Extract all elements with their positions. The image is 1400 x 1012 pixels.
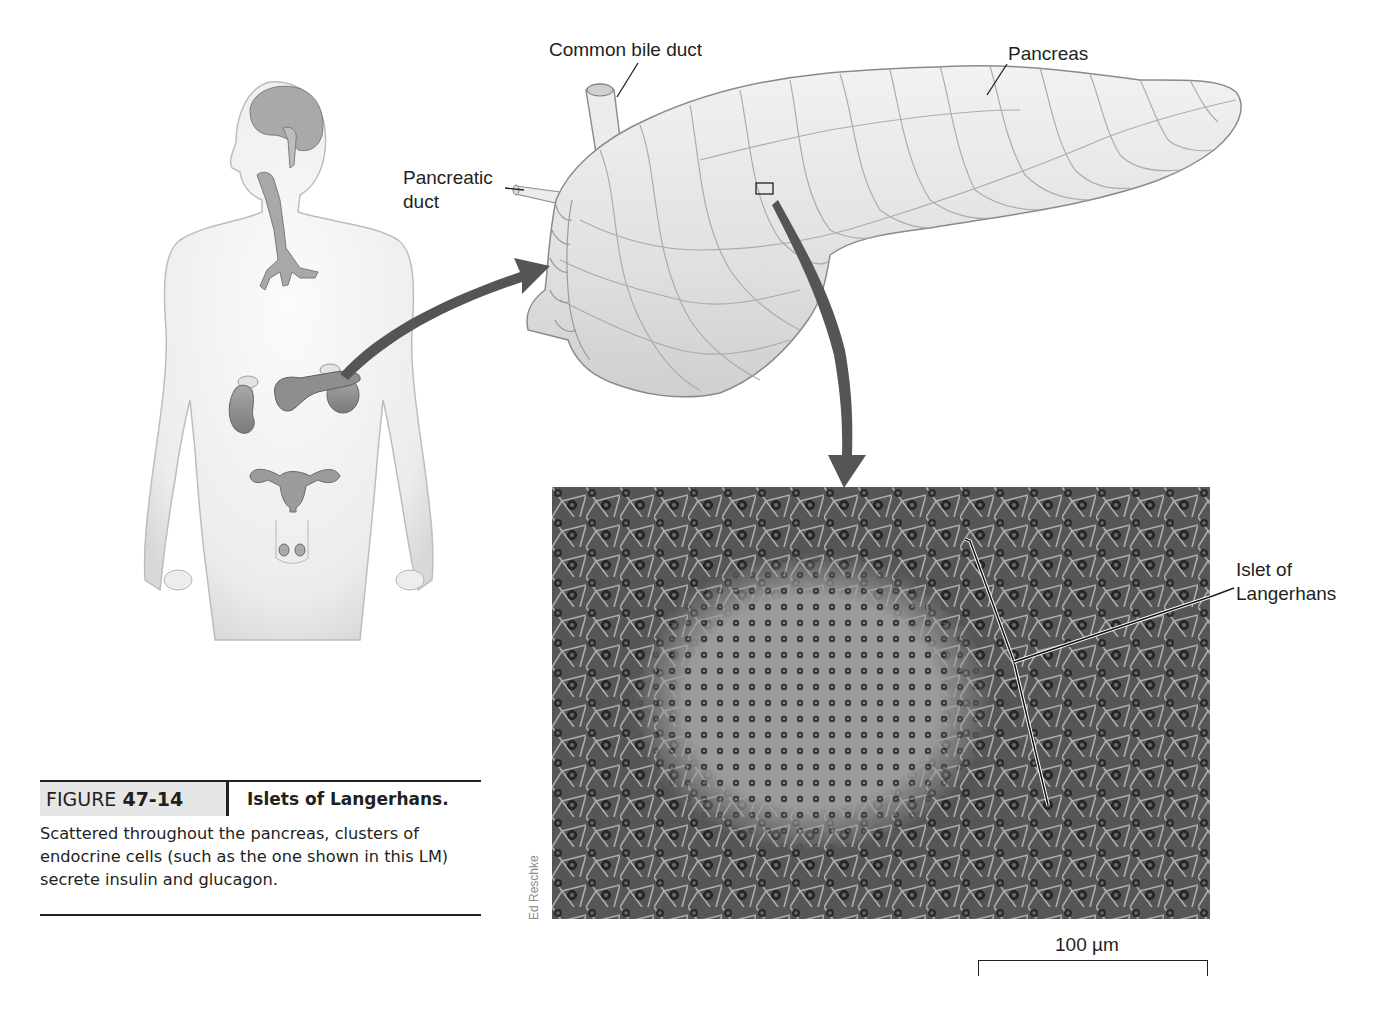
label-common-bile-duct: Common bile duct [549,38,702,61]
body-silhouette [145,82,433,640]
scale-bar [978,960,1208,976]
light-micrograph [552,487,1210,919]
figure-prefix: FIGURE [46,788,116,810]
figure-number: FIGURE 47-14 [40,782,226,816]
label-pancreatic-duct-line1: Pancreatic [403,166,493,189]
label-pancreatic-duct-line2: duct [403,190,439,213]
leader-common-bile-duct [617,63,638,97]
caption-separator [226,782,229,816]
micrograph-texture [552,487,1210,919]
label-islet-line1: Islet of [1236,558,1292,581]
left-kidney [229,385,254,433]
figure-title: Islets of Langerhans. [247,782,449,816]
photo-credit: Ed Reschke [527,855,541,920]
right-hand [396,570,424,590]
figure-number-value: 47-14 [122,788,183,810]
label-pancreas: Pancreas [1008,42,1088,65]
scale-bar-label: 100 µm [1055,933,1119,956]
figure-caption-text: Scattered throughout the pancreas, clust… [40,822,485,891]
islet-region [552,487,1210,919]
left-testis [279,544,289,556]
pancreas-organ [527,66,1241,397]
figure-caption-header: FIGURE 47-14 Islets of Langerhans. [40,782,481,816]
label-islet-line2: Langerhans [1236,582,1336,605]
pancreatic-duct-tube [516,186,560,204]
right-testis [295,544,305,556]
caption-rule-bottom [40,914,481,916]
left-hand [164,570,192,590]
